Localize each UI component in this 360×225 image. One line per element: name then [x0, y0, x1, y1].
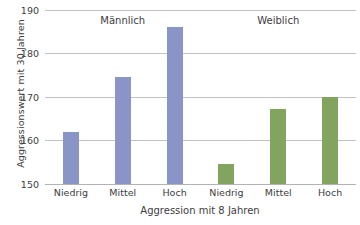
- gridline-160: 160: [45, 140, 356, 141]
- category-label-2: Hoch: [162, 187, 186, 198]
- bar-männlich-niedrig: [63, 132, 79, 184]
- y-tick-label-170: 170: [21, 91, 39, 102]
- bar-weiblich-mittel: [270, 109, 286, 184]
- gridline-180: 180: [45, 53, 356, 54]
- category-label-0: Niedrig: [54, 187, 88, 198]
- x-axis-title: Aggression mit 8 Jahren: [40, 205, 360, 216]
- gridline-150: 150: [45, 184, 356, 185]
- bar-chart: Aggressionswert mit 30 Jahren 1501601701…: [0, 0, 360, 225]
- gridline-170: 170: [45, 97, 356, 98]
- gridline-190: 190: [45, 10, 356, 11]
- bar-weiblich-hoch: [322, 97, 338, 184]
- category-label-1: Mittel: [109, 187, 136, 198]
- group-label-männlich: Männlich: [100, 15, 145, 26]
- y-tick-label-190: 190: [21, 4, 39, 15]
- y-tick-label-180: 180: [21, 48, 39, 59]
- y-tick-label-160: 160: [21, 135, 39, 146]
- y-tick-label-150: 150: [21, 178, 39, 189]
- category-label-3: Niedrig: [209, 187, 243, 198]
- bar-männlich-mittel: [115, 77, 131, 184]
- bar-weiblich-niedrig: [218, 164, 234, 184]
- category-label-4: Mittel: [265, 187, 292, 198]
- category-label-5: Hoch: [318, 187, 342, 198]
- plot-area: 150160170180190: [45, 10, 356, 184]
- bar-männlich-hoch: [167, 27, 183, 184]
- group-label-weiblich: Weiblich: [257, 15, 299, 26]
